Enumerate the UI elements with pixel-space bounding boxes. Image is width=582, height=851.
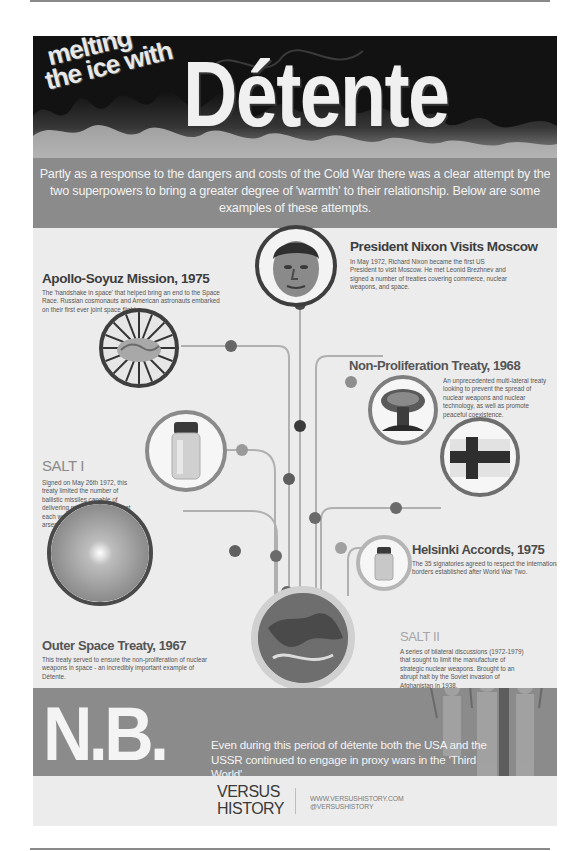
top-rule (30, 0, 550, 2)
page-title: Détente (183, 44, 448, 144)
dot-nixon-2 (294, 420, 306, 432)
galaxy-icon (51, 504, 149, 602)
salt1-medallion (145, 410, 227, 492)
finland-flag-icon (444, 421, 516, 493)
connector-salt1 (213, 450, 275, 596)
salt2-medallion (356, 535, 412, 591)
apollo-soyuz-title: Apollo-Soyuz Mission, 1975 (42, 271, 209, 286)
earth-medallion (251, 586, 355, 690)
intro-text: Partly as a response to the dangers and … (33, 158, 557, 228)
nixon-medallion (255, 225, 337, 307)
brand-divider (295, 788, 296, 814)
salt2-title: SALT II (400, 629, 439, 644)
earth-globe-icon (258, 593, 348, 683)
dot-npt (345, 376, 357, 388)
header-banner: melting the ice with Détente (33, 36, 557, 158)
brand-line-1: VERSUS (217, 783, 284, 800)
nixon-body: In May 1972, Richard Nixon became the fi… (350, 258, 512, 292)
dot-outer-space-2 (270, 550, 282, 562)
helsinki-body: The 35 signatories agreed to respect the… (412, 560, 557, 577)
dot-outer-space (229, 545, 241, 557)
apollo-soyuz-medallion (99, 308, 179, 388)
bottom-rule (30, 848, 550, 850)
nb-text: Even during this period of détente both … (211, 738, 491, 776)
outer-space-body: This treaty served to ensure the non-pro… (42, 656, 212, 681)
brand-line-2: HISTORY (217, 800, 284, 817)
handshake-icon (103, 312, 175, 384)
website-link[interactable]: WWW.VERSUSHISTORY.COM (310, 795, 403, 803)
npt-title: Non-Proliferation Treaty, 1968 (349, 358, 520, 373)
salt2-body: A series of bilateral discussions (1972-… (400, 648, 530, 690)
helsinki-medallion (440, 417, 520, 497)
npt-medallion (368, 375, 438, 445)
dot-salt2 (335, 542, 347, 554)
dot-salt1 (236, 444, 248, 456)
outer-space-medallion (47, 500, 153, 606)
salt-shaker-icon (149, 414, 223, 488)
dot-helsinki-2 (309, 512, 321, 524)
dot-helsinki (390, 502, 402, 514)
outer-space-title: Outer Space Treaty, 1967 (42, 638, 186, 653)
footer: VERSUS HISTORY WWW.VERSUSHISTORY.COM @VE… (33, 776, 557, 826)
nb-band: N.B. Even during this period of détente … (33, 688, 557, 776)
infographic-poster: melting the ice with Détente Partly as a… (33, 36, 557, 826)
nixon-title: President Nixon Visits Moscow (350, 239, 538, 254)
social-handle[interactable]: @VERSUSHISTORY (310, 803, 403, 811)
dot-apollo (225, 340, 237, 352)
nb-letters: N.B. (43, 694, 165, 774)
helsinki-title: Helsinki Accords, 1975 (412, 542, 544, 557)
connector-outer-space (183, 511, 277, 596)
brand-links: WWW.VERSUSHISTORY.COM @VERSUSHISTORY (310, 795, 403, 811)
salt1-title: SALT I (42, 457, 84, 474)
salt-shaker-icon (360, 539, 408, 587)
npt-body: An unprecedented multi-lateral treaty lo… (443, 377, 551, 419)
dot-apollo-2 (283, 473, 295, 485)
nixon-portrait-icon (259, 229, 333, 303)
brand-logo: VERSUS HISTORY (217, 783, 284, 817)
mushroom-cloud-icon (372, 379, 434, 441)
